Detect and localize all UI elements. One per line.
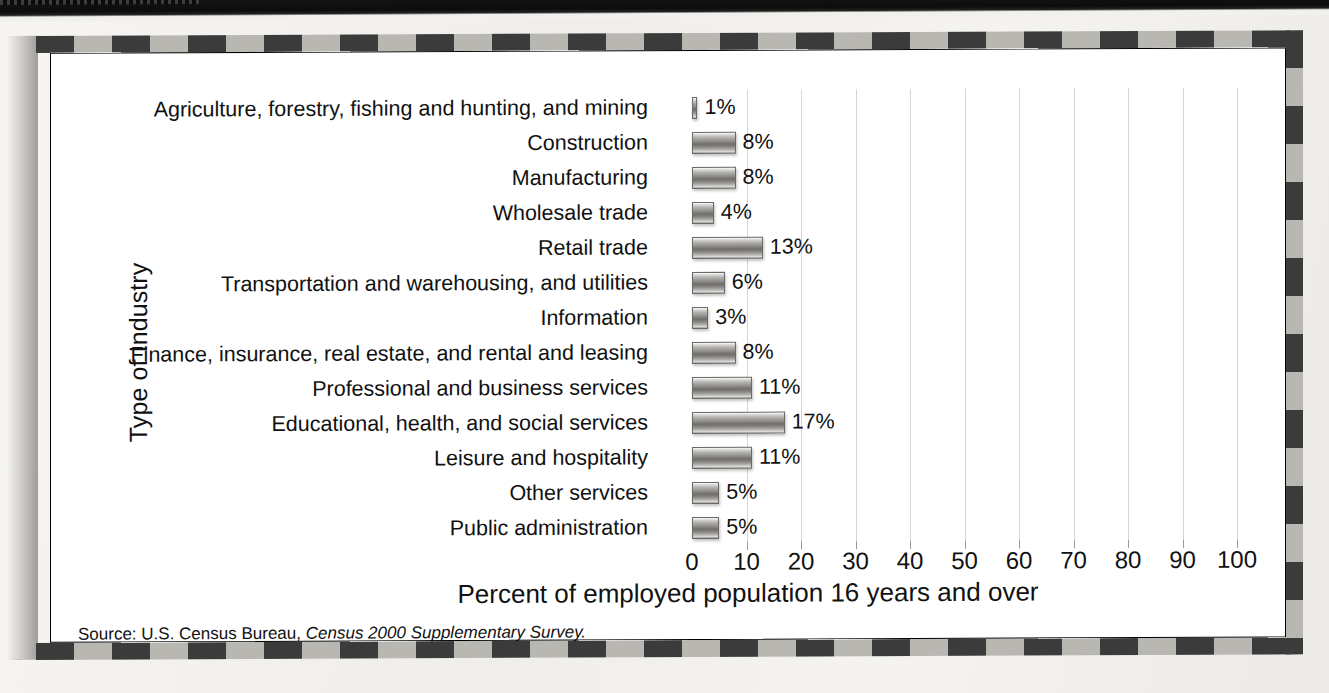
bar-value-label: 8% bbox=[743, 166, 774, 188]
category-label: Finance, insurance, real estate, and ren… bbox=[130, 342, 648, 366]
x-tick-label-10: 10 bbox=[733, 550, 760, 574]
bar[interactable] bbox=[692, 271, 725, 293]
bar-row[interactable]: Manufacturing8% bbox=[50, 157, 1286, 197]
x-axis: 0102030405060708090100 bbox=[50, 539, 1286, 574]
bar-value-label: 11% bbox=[759, 446, 800, 468]
bar-container: 17% bbox=[692, 411, 835, 434]
bar-row[interactable]: Retail trade13% bbox=[50, 227, 1286, 267]
bar-row[interactable]: Educational, health, and social services… bbox=[50, 402, 1286, 442]
category-label: Educational, health, and social services bbox=[272, 412, 648, 435]
bar[interactable] bbox=[692, 236, 763, 258]
category-label: Transportation and warehousing, and util… bbox=[221, 272, 648, 295]
bar-value-label: 5% bbox=[726, 516, 757, 538]
x-tick-label-70: 70 bbox=[1060, 548, 1087, 572]
bar-value-label: 4% bbox=[721, 202, 752, 224]
bar-chart: Type of Industry Agriculture, forestry, … bbox=[50, 47, 1286, 642]
bar-row[interactable]: Agriculture, forestry, fishing and hunti… bbox=[50, 87, 1286, 127]
x-axis-title: Percent of employed population 16 years … bbox=[50, 575, 1286, 611]
bar[interactable] bbox=[692, 166, 736, 188]
bar-row[interactable]: Finance, insurance, real estate, and ren… bbox=[50, 332, 1286, 372]
x-tick-label-80: 80 bbox=[1115, 548, 1142, 572]
category-label: Professional and business services bbox=[312, 377, 648, 400]
bar[interactable] bbox=[692, 376, 752, 398]
bar-row[interactable]: Other services5% bbox=[50, 472, 1286, 512]
category-label: Wholesale trade bbox=[493, 202, 648, 224]
bar-value-label: 11% bbox=[759, 376, 800, 398]
bar-container: 6% bbox=[692, 271, 763, 293]
x-axis-title-text: Percent of employed population 16 years … bbox=[457, 577, 1038, 611]
bar-rows: Agriculture, forestry, fishing and hunti… bbox=[50, 87, 1286, 547]
bar-value-label: 3% bbox=[715, 307, 746, 329]
category-label: Construction bbox=[527, 132, 648, 154]
x-tick-label-50: 50 bbox=[951, 549, 978, 573]
bar-container: 8% bbox=[692, 131, 774, 153]
bar-container: 5% bbox=[692, 516, 757, 538]
bar-value-label: 17% bbox=[792, 411, 835, 433]
bar[interactable] bbox=[692, 411, 785, 433]
x-tick-label-100: 100 bbox=[1217, 548, 1257, 572]
bar-container: 5% bbox=[692, 481, 757, 503]
bar-container: 1% bbox=[692, 96, 736, 118]
bar[interactable] bbox=[692, 96, 697, 118]
category-label: Information bbox=[540, 307, 648, 329]
x-tick-label-30: 30 bbox=[842, 549, 869, 573]
bar[interactable] bbox=[692, 481, 719, 503]
category-label: Other services bbox=[509, 482, 648, 504]
frame-border-right bbox=[1286, 30, 1303, 654]
x-tick-label-40: 40 bbox=[897, 549, 924, 573]
x-tick-label-20: 20 bbox=[788, 549, 815, 573]
category-label: Manufacturing bbox=[512, 167, 648, 189]
category-label: Leisure and hospitality bbox=[434, 447, 648, 469]
source-publication: Census 2000 Supplementary Survey. bbox=[306, 622, 586, 642]
bar-container: 13% bbox=[692, 236, 813, 259]
bar-row[interactable]: Wholesale trade4% bbox=[50, 192, 1286, 232]
bar-row[interactable]: Construction8% bbox=[50, 122, 1286, 162]
bar-container: 11% bbox=[692, 376, 800, 398]
bar[interactable] bbox=[692, 341, 736, 363]
frame-shadow-left bbox=[8, 36, 38, 660]
bar-value-label: 5% bbox=[726, 481, 757, 503]
bar-value-label: 8% bbox=[743, 341, 774, 363]
category-label: Public administration bbox=[450, 517, 648, 539]
x-tick-label-0: 0 bbox=[685, 550, 698, 574]
bar-value-label: 1% bbox=[704, 97, 735, 119]
source-prefix: Source: U.S. Census Bureau, bbox=[78, 624, 301, 644]
bar-value-label: 13% bbox=[770, 236, 813, 258]
category-label: Retail trade bbox=[538, 237, 648, 259]
bar-row[interactable]: Professional and business services11% bbox=[50, 367, 1286, 407]
bar-value-label: 8% bbox=[743, 131, 774, 153]
bar[interactable] bbox=[692, 131, 736, 153]
bar-row[interactable]: Leisure and hospitality11% bbox=[50, 437, 1286, 477]
bar[interactable] bbox=[692, 446, 752, 468]
bar[interactable] bbox=[692, 201, 714, 223]
bar-container: 11% bbox=[692, 446, 800, 468]
figure-frame: Type of Industry Agriculture, forestry, … bbox=[8, 30, 1303, 660]
bar-container: 8% bbox=[692, 341, 774, 363]
chart-card: Type of Industry Agriculture, forestry, … bbox=[50, 47, 1286, 642]
bar-value-label: 6% bbox=[732, 271, 763, 293]
source-note: Source: U.S. Census Bureau, Census 2000 … bbox=[78, 622, 586, 644]
bar-container: 4% bbox=[692, 201, 752, 223]
bar[interactable] bbox=[692, 516, 719, 538]
x-tick-label-60: 60 bbox=[1006, 549, 1033, 573]
bar-row[interactable]: Transportation and warehousing, and util… bbox=[50, 262, 1286, 302]
bar[interactable] bbox=[692, 306, 708, 328]
bar-container: 3% bbox=[692, 306, 746, 328]
x-tick-label-90: 90 bbox=[1169, 548, 1196, 572]
bar-container: 8% bbox=[692, 166, 774, 188]
category-label: Agriculture, forestry, fishing and hunti… bbox=[154, 97, 648, 121]
bar-row[interactable]: Information3% bbox=[50, 297, 1286, 337]
page-edge-hatch bbox=[0, 0, 200, 5]
